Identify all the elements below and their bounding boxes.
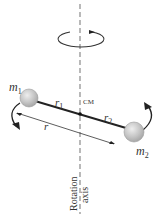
mass2-label: m2 bbox=[136, 144, 149, 160]
mass1-label: m1 bbox=[9, 80, 22, 96]
separation-arrow-icon bbox=[16, 113, 115, 144]
center-of-mass-label: CM bbox=[83, 98, 95, 106]
svg-text:axis: axis bbox=[79, 187, 90, 203]
rotation-axis-label: Rotation axis bbox=[68, 177, 90, 211]
rotation-direction-icon bbox=[58, 30, 104, 47]
two-body-rotation-diagram: m1 r1 CM r2 m2 r Rotation axis bbox=[0, 0, 160, 214]
radius1-label: r1 bbox=[55, 96, 63, 111]
center-of-mass-point bbox=[78, 112, 82, 116]
mass2-motion-arrow-icon bbox=[143, 106, 152, 130]
mass2-ball bbox=[124, 122, 144, 142]
separation-label: r bbox=[44, 120, 49, 132]
mass1-ball bbox=[20, 89, 38, 107]
radius2-label: r2 bbox=[104, 111, 112, 126]
svg-text:Rotation: Rotation bbox=[68, 177, 79, 211]
